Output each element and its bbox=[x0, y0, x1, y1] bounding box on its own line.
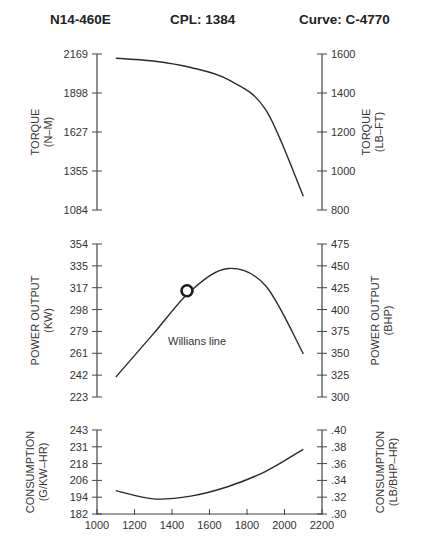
x-tick-label: 1800 bbox=[235, 519, 259, 531]
x-tick-label: 1000 bbox=[85, 519, 109, 531]
consumption-left-tick-label: 243 bbox=[70, 424, 88, 436]
power-left-tick-label: 317 bbox=[70, 282, 88, 294]
torque-right-tick-label: 1400 bbox=[331, 87, 355, 99]
torque-right-tick-label: 1000 bbox=[331, 165, 355, 177]
x-tick-label: 2000 bbox=[272, 519, 296, 531]
torque-left-tick-label: 2169 bbox=[64, 48, 88, 60]
power-left-tick-label: 261 bbox=[70, 347, 88, 359]
consumption-right-tick-label: .34 bbox=[331, 474, 346, 486]
consumption-right-tick-label: .36 bbox=[331, 458, 346, 470]
power-left-tick-label: 223 bbox=[70, 391, 88, 403]
power-right-tick-label: 400 bbox=[331, 304, 349, 316]
power-left-tick-label: 354 bbox=[70, 238, 88, 250]
torque-right-axis-title: TORQUE(LB–FT) bbox=[360, 109, 385, 156]
engine-performance-chart: 216918981627135510841600140012001000800T… bbox=[0, 0, 421, 554]
power-right-tick-label: 325 bbox=[331, 369, 349, 381]
consumption-left-axis-title: CONSUMPTION(G/KW–HR) bbox=[24, 431, 49, 514]
x-tick-label: 1600 bbox=[197, 519, 221, 531]
power-left-tick-label: 242 bbox=[70, 369, 88, 381]
power-left-tick-label: 335 bbox=[70, 260, 88, 272]
power-left-axis-title: POWER OUTPUT(KW) bbox=[29, 275, 54, 365]
torque-right-tick-label: 800 bbox=[331, 204, 349, 216]
consumption-right-axis-title: CONSUMPTION(LB/BHP–HR) bbox=[374, 431, 399, 514]
torque-left-tick-label: 1355 bbox=[64, 165, 88, 177]
torque-curve bbox=[116, 58, 303, 196]
x-tick-label: 1400 bbox=[160, 519, 184, 531]
consumption-right-tick-label: .40 bbox=[331, 424, 346, 436]
torque-left-tick-label: 1084 bbox=[64, 204, 88, 216]
x-tick-label: 2200 bbox=[310, 519, 334, 531]
consumption-left-tick-label: 206 bbox=[70, 474, 88, 486]
consumption-left-tick-label: 218 bbox=[70, 458, 88, 470]
power-curve bbox=[116, 268, 303, 377]
power-left-tick-label: 279 bbox=[70, 325, 88, 337]
consumption-left-tick-label: 231 bbox=[70, 441, 88, 453]
torque-right-tick-label: 1600 bbox=[331, 48, 355, 60]
power-right-tick-label: 300 bbox=[331, 391, 349, 403]
consumption-right-tick-label: .32 bbox=[331, 491, 346, 503]
torque-left-axis-title: TORQUE(N–M) bbox=[29, 109, 54, 156]
power-right-axis-title: POWER OUTPUT(BHP) bbox=[369, 275, 394, 365]
power-right-tick-label: 375 bbox=[331, 325, 349, 337]
torque-left-tick-label: 1898 bbox=[64, 87, 88, 99]
consumption-curve bbox=[116, 449, 303, 499]
rated-point-marker bbox=[182, 285, 193, 296]
torque-right-tick-label: 1200 bbox=[331, 126, 355, 138]
power-right-tick-label: 450 bbox=[331, 260, 349, 272]
torque-left-tick-label: 1627 bbox=[64, 126, 88, 138]
power-right-tick-label: 475 bbox=[331, 238, 349, 250]
power-right-tick-label: 425 bbox=[331, 282, 349, 294]
power-right-tick-label: 350 bbox=[331, 347, 349, 359]
x-tick-label: 1200 bbox=[122, 519, 146, 531]
power-left-tick-label: 298 bbox=[70, 304, 88, 316]
willians-line-label: Willians line bbox=[168, 335, 226, 347]
consumption-right-tick-label: .38 bbox=[331, 441, 346, 453]
consumption-left-tick-label: 194 bbox=[70, 491, 88, 503]
